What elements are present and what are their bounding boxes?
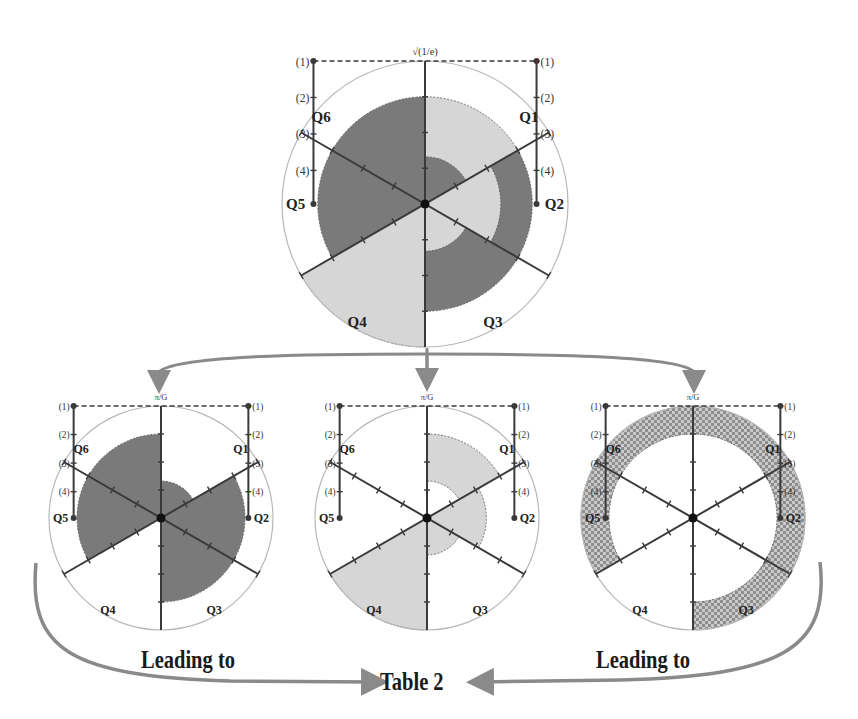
- quadrant-label-q5: Q5: [53, 511, 68, 525]
- quadrant-label-q2: Q2: [786, 511, 801, 525]
- diagram-canvas: (1)(2)(3)(4)(1)(2)(3)(4)√(1/e)Q1Q2Q3Q4Q5…: [0, 0, 858, 719]
- quadrant-label-q6: Q6: [73, 442, 88, 456]
- quadrant-label-q5: Q5: [585, 511, 600, 525]
- scale-mark-label: (4): [325, 487, 336, 498]
- connector-left-branch: [159, 354, 427, 382]
- quadrant-label-q2: Q2: [520, 511, 535, 525]
- scale-mark-label: (1): [325, 402, 336, 413]
- vertical-axis-label: π/G: [155, 393, 168, 402]
- quadrant-label-q2: Q2: [545, 196, 564, 212]
- scale-mark-label: (1): [296, 56, 310, 69]
- scale-mark-label: (1): [784, 402, 795, 413]
- quadrant-label-q3: Q3: [207, 603, 222, 617]
- quadrant-label-q2: Q2: [254, 511, 269, 525]
- quadrant-label-q5: Q5: [319, 511, 334, 525]
- connector-right-branch: [427, 354, 694, 382]
- vertical-axis-label: √(1/e): [412, 46, 438, 58]
- radar-diagrams-group: (1)(2)(3)(4)(1)(2)(3)(4)√(1/e)Q1Q2Q3Q4Q5…: [49, 46, 805, 630]
- center-dot: [421, 200, 430, 209]
- center-dot: [157, 514, 166, 523]
- scale-mark-label: (3): [591, 459, 602, 470]
- scale-endpoint: [603, 515, 609, 521]
- caption-right-leading-to: Leading to: [596, 646, 690, 674]
- scale-endpoint: [777, 515, 783, 521]
- scale-mark-label: (3): [252, 459, 263, 470]
- scale-mark-label: (3): [784, 459, 795, 470]
- scale-mark-label: (2): [252, 430, 263, 441]
- quadrant-label-q4: Q4: [100, 603, 115, 617]
- quadrant-label-q6: Q6: [605, 442, 620, 456]
- quadrant-label-q3: Q3: [483, 314, 502, 330]
- scale-mark-label: (4): [59, 487, 70, 498]
- quadrant-label-q4: Q4: [632, 603, 647, 617]
- radar-diagram-bottom-right: (1)(2)(3)(4)(1)(2)(3)(4)π/GQ1Q2Q3Q4Q5Q6: [581, 393, 805, 630]
- scale-mark-label: (2): [518, 430, 529, 441]
- scale-mark-label: (4): [252, 487, 263, 498]
- quadrant-label-q5: Q5: [286, 196, 305, 212]
- radar-diagram-bottom-middle: (1)(2)(3)(4)(1)(2)(3)(4)π/GQ1Q2Q3Q4Q5Q6: [315, 393, 539, 630]
- quadrant-label-q4: Q4: [347, 314, 367, 330]
- quadrant-label-q1: Q1: [233, 442, 248, 456]
- scale-mark-label: (4): [784, 487, 795, 498]
- scale-mark-label: (4): [541, 165, 555, 178]
- scale-mark-label: (2): [325, 430, 336, 441]
- scale-mark-label: (3): [59, 459, 70, 470]
- scale-endpoint: [245, 515, 251, 521]
- radar-diagram-top: (1)(2)(3)(4)(1)(2)(3)(4)√(1/e)Q1Q2Q3Q4Q5…: [282, 46, 568, 347]
- scale-mark-label: (2): [296, 92, 310, 105]
- scale-mark-label: (2): [784, 430, 795, 441]
- scale-mark-label: (2): [59, 430, 70, 441]
- scale-mark-label: (3): [296, 128, 310, 141]
- quadrant-label-q4: Q4: [366, 603, 381, 617]
- quadrant-label-q6: Q6: [312, 109, 332, 125]
- scale-mark-label: (1): [252, 402, 263, 413]
- quadrant-label-q1: Q1: [499, 442, 514, 456]
- scale-mark-label: (2): [591, 430, 602, 441]
- scale-endpoint: [337, 515, 343, 521]
- caption-left-leading-to: Leading to: [141, 646, 235, 674]
- scale-endpoint: [310, 201, 316, 207]
- quadrant-label-q3: Q3: [473, 603, 488, 617]
- scale-mark-label: (1): [59, 402, 70, 413]
- vertical-axis-label: π/G: [687, 393, 700, 402]
- scale-mark-label: (1): [518, 402, 529, 413]
- scale-endpoint: [511, 515, 517, 521]
- quadrant-label-q1: Q1: [519, 109, 538, 125]
- scale-mark-label: (4): [591, 487, 602, 498]
- center-dot: [689, 514, 698, 523]
- radar-diagram-bottom-left: (1)(2)(3)(4)(1)(2)(3)(4)π/GQ1Q2Q3Q4Q5Q6: [49, 393, 273, 630]
- split-connector: [159, 348, 694, 382]
- scale-mark-label: (1): [541, 56, 555, 69]
- scale-mark-label: (4): [296, 165, 310, 178]
- scale-mark-label: (3): [541, 128, 555, 141]
- scale-mark-label: (3): [325, 459, 336, 470]
- scale-mark-label: (4): [518, 487, 529, 498]
- caption-table-2: Table 2: [380, 668, 444, 696]
- vertical-axis-label: π/G: [421, 393, 434, 402]
- scale-endpoint: [534, 201, 540, 207]
- quadrant-label-q1: Q1: [765, 442, 780, 456]
- scale-endpoint: [71, 515, 77, 521]
- scale-mark-label: (2): [541, 92, 555, 105]
- scale-mark-label: (1): [591, 402, 602, 413]
- quadrant-label-q6: Q6: [339, 442, 354, 456]
- quadrant-label-q3: Q3: [739, 603, 754, 617]
- sector-q1-light: [427, 434, 500, 500]
- center-dot: [423, 514, 432, 523]
- scale-mark-label: (3): [518, 459, 529, 470]
